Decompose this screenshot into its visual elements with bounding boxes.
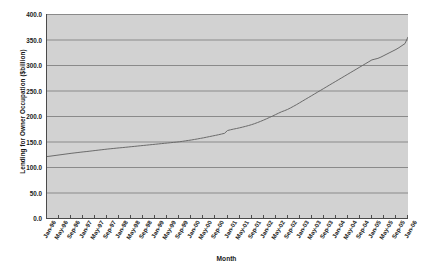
x-tick-mark	[118, 215, 119, 219]
x-tick-mark	[299, 215, 300, 219]
x-tick-mark	[202, 215, 203, 219]
x-tick-mark	[227, 215, 228, 219]
x-tick-mark	[166, 215, 167, 219]
gridlines	[47, 15, 408, 194]
y-tick-label: 0.0	[13, 215, 42, 222]
x-tick-mark	[407, 215, 408, 219]
x-tick-mark	[82, 215, 83, 219]
x-tick-mark	[347, 215, 348, 219]
x-axis-tick-labels: Jan-96May-96Sep-96Jan-97May-97Sep-97Jan-…	[46, 219, 407, 253]
data-series-svg	[47, 14, 408, 218]
x-tick-mark	[275, 215, 276, 219]
y-tick-label: 300.0	[13, 62, 42, 69]
x-tick-mark	[323, 215, 324, 219]
y-tick-label: 250.0	[13, 87, 42, 94]
x-tick-mark	[359, 215, 360, 219]
x-tick-mark	[335, 215, 336, 219]
y-tick-label: 200.0	[13, 113, 42, 120]
x-tick-mark	[214, 215, 215, 219]
lending-series-line	[47, 37, 408, 157]
y-axis-tick-labels: 0.050.0100.0150.0200.0250.0300.0350.0400…	[13, 14, 42, 218]
x-tick-mark	[311, 215, 312, 219]
x-tick-mark	[154, 215, 155, 219]
x-tick-mark	[239, 215, 240, 219]
line-chart-figure: Lending for Owner Occupation ($billion) …	[0, 0, 439, 274]
x-tick-mark	[178, 215, 179, 219]
y-tick-label: 150.0	[13, 138, 42, 145]
x-tick-mark	[70, 215, 71, 219]
x-tick-mark	[383, 215, 384, 219]
y-tick-label: 400.0	[13, 11, 42, 18]
x-tick-mark	[251, 215, 252, 219]
x-tick-mark	[94, 215, 95, 219]
x-tick-mark	[142, 215, 143, 219]
plot-area	[46, 14, 408, 219]
caption-strip	[4, 268, 304, 274]
x-tick-mark	[287, 215, 288, 219]
y-tick-label: 50.0	[13, 189, 42, 196]
x-tick-mark	[371, 215, 372, 219]
x-tick-mark	[190, 215, 191, 219]
x-tick-mark	[106, 215, 107, 219]
x-axis-title: Month	[46, 255, 407, 262]
y-tick-label: 350.0	[13, 36, 42, 43]
x-tick-mark	[130, 215, 131, 219]
x-tick-mark	[395, 215, 396, 219]
x-tick-mark	[46, 215, 47, 219]
x-tick-mark	[263, 215, 264, 219]
y-tick-label: 100.0	[13, 164, 42, 171]
x-tick-mark	[58, 215, 59, 219]
